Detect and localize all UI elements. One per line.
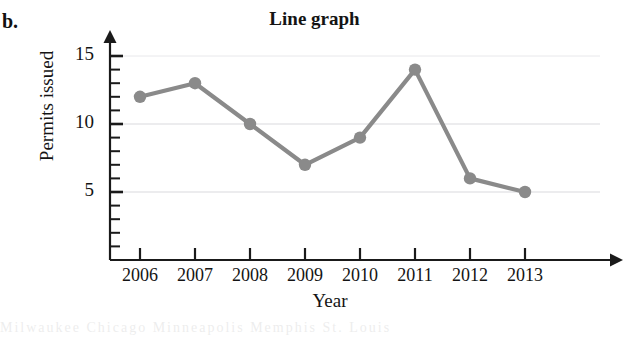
data-point-2008 (244, 118, 256, 130)
page-bleed-text: Milwaukee Chicago Minneapolis Memphis St… (0, 320, 629, 338)
x-axis-ticks (140, 248, 525, 260)
line-chart-plot (0, 0, 629, 339)
figure-container: b. Line graph Permits issued Year 15 10 … (0, 0, 629, 339)
data-point-2010 (354, 131, 366, 143)
y-axis-ticks (110, 56, 123, 246)
data-markers (134, 63, 531, 198)
data-point-2007 (189, 77, 201, 89)
data-point-2012 (464, 172, 476, 184)
data-point-2011 (409, 63, 421, 75)
gridlines (112, 56, 600, 192)
data-point-2006 (134, 91, 146, 103)
data-point-2013 (519, 186, 531, 198)
data-point-2009 (299, 159, 311, 171)
